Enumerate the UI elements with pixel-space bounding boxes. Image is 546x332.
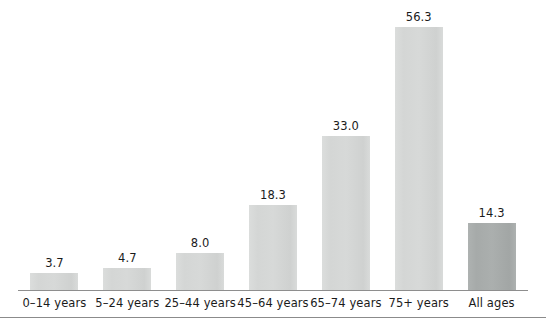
bar-value-label: 56.3 [406, 12, 432, 24]
category-label: 5–24 years [91, 296, 164, 310]
bar-group: 33.0 [309, 10, 382, 290]
bar-group: 18.3 [237, 10, 310, 290]
bar-value-label: 3.7 [45, 258, 64, 270]
bar-group: 14.3 [455, 10, 528, 290]
bar-value-label: 4.7 [118, 253, 137, 265]
bar-value-label: 33.0 [333, 121, 359, 133]
category-label: 75+ years [382, 296, 455, 310]
category-label: 45–64 years [237, 296, 310, 310]
bar-rect [176, 253, 224, 290]
bar-group: 3.7 [18, 10, 91, 290]
bar-group: 4.7 [91, 10, 164, 290]
bar-rect [395, 27, 443, 290]
bar-group: 56.3 [382, 10, 455, 290]
bar-rect [30, 273, 78, 290]
category-label: All ages [455, 296, 528, 310]
category-label: 0–14 years [18, 296, 91, 310]
bar-value-label: 14.3 [479, 208, 505, 220]
category-label: 25–44 years [164, 296, 237, 310]
bar-rect [103, 268, 151, 290]
bar-value-label: 8.0 [191, 238, 210, 250]
footer-divider [0, 317, 546, 318]
bar-rect [468, 223, 516, 290]
bar-rect [322, 136, 370, 290]
bar-chart-figure: 3.74.78.018.333.056.314.3 0–14 years5–24… [0, 0, 546, 332]
bar-group: 8.0 [164, 10, 237, 290]
bar-value-label: 18.3 [260, 190, 286, 202]
plot-area: 3.74.78.018.333.056.314.3 [18, 10, 528, 290]
x-axis-line [18, 290, 528, 291]
category-axis-labels: 0–14 years5–24 years25–44 years45–64 yea… [18, 296, 528, 310]
category-label: 65–74 years [309, 296, 382, 310]
bar-rect [249, 205, 297, 290]
bars-row: 3.74.78.018.333.056.314.3 [18, 10, 528, 290]
